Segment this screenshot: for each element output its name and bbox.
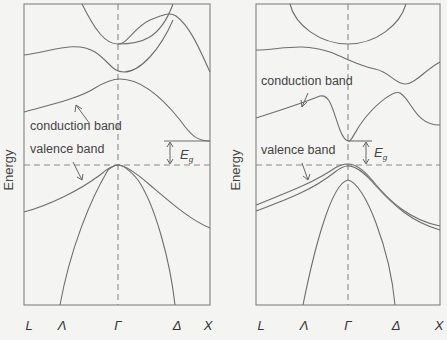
valence-band-label: valence band bbox=[261, 143, 335, 157]
gap-label: Eg bbox=[180, 147, 194, 164]
left-panel: Eg conduction band valence band Energy L… bbox=[1, 4, 214, 333]
k-point-L: L bbox=[25, 318, 32, 333]
y-axis-label: Energy bbox=[228, 149, 243, 191]
k-point-Delta: Δ bbox=[391, 318, 401, 333]
k-point-X: X bbox=[434, 318, 445, 333]
heavy-hole-band bbox=[24, 165, 210, 228]
k-point-X: X bbox=[203, 318, 214, 333]
band-structure-figure: Eg conduction band valence band Energy L… bbox=[0, 0, 447, 340]
k-point-L: L bbox=[257, 318, 264, 333]
upper-band-1 bbox=[82, 4, 210, 72]
upper-band-3 bbox=[24, 20, 173, 72]
upper-band-2 bbox=[118, 4, 173, 44]
k-point-Lambda: Λ bbox=[299, 318, 309, 333]
k-point-Lambda: Λ bbox=[57, 318, 67, 333]
conduction-band-label: conduction band bbox=[261, 74, 353, 88]
right-panel: Eg conduction band valence band Energy L… bbox=[228, 4, 445, 333]
conduction-band-label: conduction band bbox=[30, 119, 122, 133]
k-point-Gamma: Γ bbox=[344, 318, 352, 333]
valence-band-label: valence band bbox=[30, 142, 104, 156]
k-point-Delta: Δ bbox=[172, 318, 182, 333]
gap-label: Eg bbox=[374, 145, 388, 162]
y-axis-label: Energy bbox=[1, 149, 16, 191]
conduction-band-pointer bbox=[302, 93, 308, 107]
split-off-band bbox=[303, 180, 395, 305]
k-point-Gamma: Γ bbox=[114, 318, 122, 333]
